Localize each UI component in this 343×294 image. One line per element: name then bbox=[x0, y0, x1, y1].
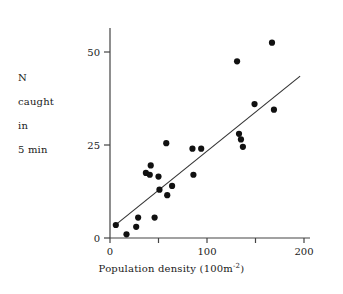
y-tick-label-0: 0 bbox=[94, 233, 100, 244]
data-point-22 bbox=[271, 107, 277, 113]
x-axis-ticks bbox=[110, 238, 304, 243]
data-point-14 bbox=[190, 172, 196, 178]
x-axis-tick-labels: 0100200 bbox=[107, 246, 314, 257]
y-axis-tick-labels: 02550 bbox=[87, 47, 100, 244]
y-axis-label: N caught in 5 min bbox=[18, 66, 88, 162]
x-axis-label-main: Population density (100m bbox=[99, 263, 233, 274]
fit-line-segment bbox=[117, 76, 300, 224]
data-point-0 bbox=[113, 222, 119, 228]
data-point-18 bbox=[238, 136, 244, 142]
x-tick-label-200: 200 bbox=[294, 246, 313, 257]
data-point-10 bbox=[163, 140, 169, 146]
axes-group bbox=[110, 28, 310, 238]
data-point-21 bbox=[269, 40, 275, 46]
x-axis-label-tail: ) bbox=[240, 263, 244, 274]
data-point-17 bbox=[236, 131, 242, 137]
data-point-8 bbox=[155, 174, 161, 180]
y-tick-label-50: 50 bbox=[87, 47, 100, 58]
y-tick-label-25: 25 bbox=[87, 140, 100, 151]
y-axis-label-line-4: 5 min bbox=[18, 138, 88, 162]
data-point-16 bbox=[234, 58, 240, 64]
data-point-2 bbox=[133, 224, 139, 230]
data-point-9 bbox=[156, 187, 162, 193]
scatter-plot-figure: 02550 0100200 N caught in 5 min Populati… bbox=[0, 0, 343, 294]
y-axis-label-line-3: in bbox=[18, 114, 88, 138]
data-point-7 bbox=[152, 214, 158, 220]
x-tick-label-100: 100 bbox=[197, 246, 216, 257]
data-point-3 bbox=[135, 214, 141, 220]
x-tick-label-0: 0 bbox=[107, 246, 113, 257]
data-point-6 bbox=[148, 162, 154, 168]
data-point-19 bbox=[240, 144, 246, 150]
data-point-1 bbox=[123, 231, 129, 237]
data-point-11 bbox=[164, 192, 170, 198]
x-axis-label: Population density (100m-2) bbox=[0, 263, 343, 274]
y-axis-label-line-1: N bbox=[18, 66, 88, 90]
y-axis-ticks bbox=[104, 52, 110, 238]
data-point-5 bbox=[147, 172, 153, 178]
y-axis-label-line-2: caught bbox=[18, 90, 88, 114]
regression-line bbox=[117, 76, 300, 224]
data-point-13 bbox=[189, 146, 195, 152]
data-point-15 bbox=[198, 146, 204, 152]
data-point-20 bbox=[251, 101, 257, 107]
data-point-12 bbox=[169, 183, 175, 189]
